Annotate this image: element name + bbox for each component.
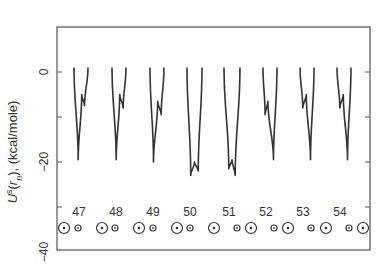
energy-curve-51	[224, 68, 240, 176]
energy-curve-54	[337, 68, 351, 160]
atom-symbols	[59, 223, 369, 234]
atom-symbol-dot	[101, 227, 104, 230]
energy-curve-47	[74, 68, 88, 160]
y-tick-labels: 0−20−40	[37, 68, 51, 262]
y-axis-label: Us(rn), (kcal/mole)	[4, 101, 24, 204]
y-tick-label: −20	[37, 151, 51, 172]
residue-label-47: 47	[72, 205, 86, 219]
energy-curve-53	[300, 68, 314, 160]
energy-curve-49	[150, 68, 164, 163]
y-ticks	[57, 72, 370, 207]
residue-labels: 4748495051525354	[72, 205, 347, 219]
y-tick-label: −40	[37, 241, 51, 262]
atom-symbol-dot	[362, 227, 365, 230]
axes-frame	[57, 27, 370, 250]
atom-symbol-dot	[63, 227, 66, 230]
energy-curves	[74, 68, 351, 176]
residue-label-53: 53	[296, 205, 310, 219]
atom-symbol-dot	[273, 227, 275, 229]
energy-chart: 0−20−40 Us(rn), (kcal/mole) 474849505152…	[0, 0, 390, 274]
residue-label-50: 50	[183, 205, 197, 219]
atom-symbol-dot	[189, 227, 191, 229]
atom-symbol-dot	[250, 227, 253, 230]
atom-symbol-dot	[138, 227, 141, 230]
energy-curve-52	[263, 68, 277, 160]
residue-label-49: 49	[146, 205, 160, 219]
residue-label-48: 48	[109, 205, 123, 219]
energy-curve-50	[187, 68, 202, 176]
atom-symbol-dot	[213, 227, 216, 230]
atom-symbol-dot	[310, 227, 312, 229]
atom-symbol-dot	[287, 227, 290, 230]
energy-curve-48	[112, 68, 126, 160]
residue-label-52: 52	[259, 205, 273, 219]
atom-symbol-dot	[114, 227, 116, 229]
atom-symbol-dot	[77, 227, 79, 229]
y-tick-label: 0	[37, 68, 51, 75]
atom-symbol-dot	[176, 227, 179, 230]
atom-symbol-dot	[236, 227, 238, 229]
atom-symbol-dot	[325, 227, 328, 230]
residue-label-51: 51	[222, 205, 236, 219]
atom-symbol-dot	[348, 227, 350, 229]
atom-symbol-dot	[152, 227, 154, 229]
residue-label-54: 54	[333, 205, 347, 219]
